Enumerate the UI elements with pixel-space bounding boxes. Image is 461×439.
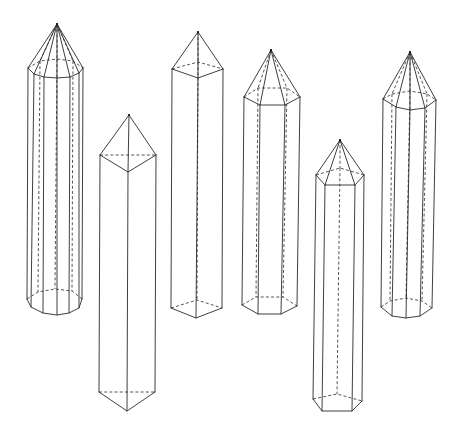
hidden-lateral-edge	[256, 88, 258, 297]
lateral-edge	[322, 185, 325, 411]
pyramid-edge	[34, 24, 57, 74]
octagonal-prism	[381, 51, 436, 318]
lateral-edge	[313, 175, 316, 399]
bottom-visible-edges	[27, 299, 82, 315]
square-prism	[171, 31, 223, 318]
pyramid-edge	[340, 140, 364, 175]
apex-point	[409, 51, 411, 53]
apex-point	[56, 23, 58, 25]
pyramid-edge	[244, 50, 271, 97]
lateral-edge	[432, 100, 436, 308]
apex-point	[270, 49, 272, 51]
pyramid-edge	[128, 115, 129, 172]
bottom-visible-edges	[313, 399, 362, 411]
lateral-edge	[381, 99, 383, 307]
lateral-edge	[352, 185, 355, 411]
top-visible-edges	[172, 69, 223, 78]
pyramid-edge	[100, 115, 129, 155]
pentagonal-prism	[313, 139, 364, 411]
pyramid-edge	[316, 140, 340, 175]
top-hidden-edges	[244, 88, 300, 97]
pyramid-edge	[271, 50, 300, 97]
pyramid-edge	[410, 52, 436, 100]
lateral-edge	[258, 105, 260, 314]
lateral-edge	[406, 110, 410, 318]
pyramid-edge	[271, 50, 285, 105]
bottom-hidden-edges	[313, 394, 362, 401]
top-visible-edges	[244, 97, 300, 105]
lateral-edge	[43, 77, 44, 313]
pyramid-edge	[260, 50, 271, 105]
lateral-edge	[27, 68, 28, 299]
hidden-lateral-edge	[337, 168, 340, 394]
lateral-edge	[242, 97, 244, 305]
lateral-edge	[362, 175, 364, 401]
bottom-visible-edges	[242, 305, 297, 314]
lateral-edge	[222, 69, 223, 308]
apex-point	[128, 114, 130, 116]
pyramid-edge	[198, 32, 223, 69]
hidden-lateral-edge	[72, 61, 73, 291]
pyramid-edge	[28, 24, 57, 68]
pyramid-edge	[44, 24, 57, 77]
top-hidden-edges	[172, 62, 223, 69]
hexagonal-prism	[242, 49, 300, 314]
apex-point	[197, 31, 199, 33]
hidden-pyramid-edge	[410, 52, 427, 94]
pyramid-edge	[340, 140, 355, 185]
prisms-diagram	[0, 0, 461, 439]
lateral-edge	[155, 155, 156, 392]
lateral-edge	[69, 77, 70, 313]
pyramid-edge	[396, 52, 410, 107]
lateral-edge	[127, 172, 128, 411]
lateral-edge	[420, 108, 425, 316]
pyramid-edge	[129, 115, 156, 155]
hidden-lateral-edge	[38, 61, 40, 292]
lateral-edge	[31, 74, 34, 307]
triangular-prism	[99, 114, 156, 411]
hidden-lateral-edge	[390, 94, 392, 301]
pyramid-edge	[410, 52, 425, 108]
lateral-edge	[171, 69, 172, 308]
pyramid-edge	[57, 24, 79, 73]
lateral-edge	[82, 68, 83, 299]
bottom-hidden-edges	[27, 289, 82, 299]
pyramid-edge	[383, 52, 410, 99]
lateral-edge	[297, 97, 300, 306]
pyramid-edge	[325, 140, 340, 185]
pyramid-edge	[57, 24, 83, 68]
bottom-hidden-edges	[242, 297, 297, 306]
apex-point	[339, 139, 341, 141]
lateral-edge	[99, 155, 100, 392]
lateral-edge	[392, 107, 396, 316]
dodecagonal-prism	[27, 23, 83, 315]
